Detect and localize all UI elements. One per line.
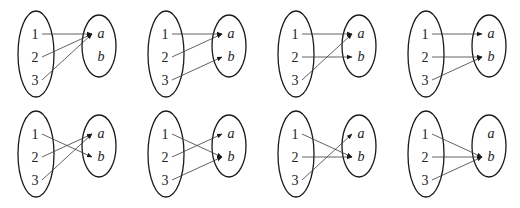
codomain-element-a: a <box>358 26 365 41</box>
codomain-element-b: b <box>488 49 495 64</box>
domain-element-1: 1 <box>162 127 169 142</box>
arrow-1-to-b <box>432 134 482 157</box>
arrow-3-to-b <box>172 57 222 80</box>
arrow-2-to-a <box>172 34 222 57</box>
codomain-element-a: a <box>488 126 495 141</box>
function-panel-1: 123ab <box>18 11 116 97</box>
codomain-set-ellipse <box>212 15 246 77</box>
codomain-element-b: b <box>98 149 105 164</box>
arrow-3-to-b <box>432 57 482 80</box>
domain-element-3: 3 <box>292 73 299 88</box>
codomain-element-a: a <box>228 26 235 41</box>
codomain-set-ellipse <box>342 15 376 77</box>
codomain-element-a: a <box>358 126 365 141</box>
domain-element-1: 1 <box>32 127 39 142</box>
arrow-2-to-a <box>42 34 92 57</box>
domain-element-3: 3 <box>32 173 39 188</box>
codomain-element-a: a <box>98 126 105 141</box>
codomain-element-a: a <box>488 26 495 41</box>
arrow-3-to-b <box>432 157 482 180</box>
domain-element-1: 1 <box>292 127 299 142</box>
codomain-element-b: b <box>98 49 105 64</box>
domain-element-2: 2 <box>162 150 169 165</box>
domain-element-3: 3 <box>292 173 299 188</box>
domain-element-2: 2 <box>292 50 299 65</box>
domain-element-1: 1 <box>292 27 299 42</box>
domain-element-3: 3 <box>32 73 39 88</box>
domain-element-3: 3 <box>162 73 169 88</box>
codomain-element-a: a <box>98 26 105 41</box>
codomain-element-a: a <box>228 126 235 141</box>
codomain-set-ellipse <box>212 115 246 177</box>
domain-element-2: 2 <box>32 150 39 165</box>
codomain-set-ellipse <box>472 115 506 177</box>
function-panel-3: 123ab <box>278 11 376 97</box>
codomain-element-b: b <box>488 149 495 164</box>
domain-element-3: 3 <box>422 173 429 188</box>
codomain-set-ellipse <box>82 115 116 177</box>
domain-element-2: 2 <box>32 50 39 65</box>
domain-element-2: 2 <box>422 50 429 65</box>
domain-element-3: 3 <box>162 173 169 188</box>
codomain-element-b: b <box>228 149 235 164</box>
arrow-3-to-b <box>172 157 222 180</box>
codomain-element-b: b <box>358 49 365 64</box>
function-panel-4: 123ab <box>408 11 506 97</box>
codomain-set-ellipse <box>342 115 376 177</box>
domain-element-3: 3 <box>422 73 429 88</box>
domain-element-1: 1 <box>422 127 429 142</box>
function-panel-7: 123ab <box>278 111 376 197</box>
domain-element-2: 2 <box>422 150 429 165</box>
domain-element-1: 1 <box>162 27 169 42</box>
domain-element-2: 2 <box>162 50 169 65</box>
function-panel-8: 123ab <box>408 111 506 197</box>
function-panel-2: 123ab <box>148 11 246 97</box>
codomain-element-b: b <box>358 149 365 164</box>
codomain-set-ellipse <box>472 15 506 77</box>
arrow-3-to-a <box>42 134 92 180</box>
function-diagrams-figure: 123ab123ab123ab123ab123ab123ab123ab123ab <box>0 0 520 208</box>
arrow-1-to-b <box>302 134 352 157</box>
domain-element-2: 2 <box>292 150 299 165</box>
codomain-set-ellipse <box>82 15 116 77</box>
arrow-3-to-a <box>42 34 92 80</box>
domain-element-1: 1 <box>32 27 39 42</box>
function-panel-5: 123ab <box>18 111 116 197</box>
domain-element-1: 1 <box>422 27 429 42</box>
codomain-element-b: b <box>228 49 235 64</box>
function-panel-6: 123ab <box>148 111 246 197</box>
